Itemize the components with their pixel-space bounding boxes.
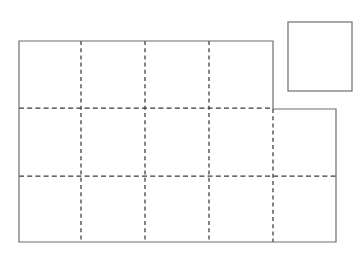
geometry-figure (0, 0, 358, 268)
figure-canvas (0, 0, 358, 268)
unit-square-fill (288, 22, 352, 91)
